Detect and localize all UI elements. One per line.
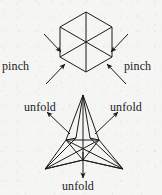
star-edge-tip-top-to-inner-right [83,95,99,140]
unfold-arrow-left [47,112,70,134]
pinch-arrow-lower-left [46,64,65,84]
label-unfold-left: unfold [24,101,56,113]
figure-diagram [0,0,162,195]
figure-container: pinch pinch unfold unfold unfold [0,0,162,195]
hexagon-spoke-right [86,27,112,42]
pinch-arrow-upper-left [44,34,61,52]
label-pinch-left: pinch [2,60,29,72]
label-unfold-bottom: unfold [62,180,94,192]
hexagon-spoke-lower-right [86,42,112,57]
unfold-arrow-right [95,112,118,134]
hexagon-spoke-lower-left [60,42,86,57]
star-edge-tip-left-to-inner-right [45,140,99,169]
pinch-arrow-upper-right [111,34,128,52]
label-pinch-right: pinch [124,60,151,72]
hexagon-spoke-left [60,27,86,42]
hexagon-shape [60,12,112,72]
star-edge-tip-right-to-inner-left [66,140,123,169]
label-unfold-right: unfold [110,101,142,113]
